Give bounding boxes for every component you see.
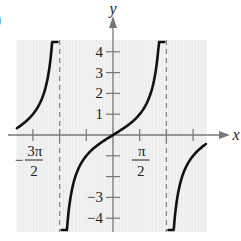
y-tick-label: −4 (87, 210, 103, 226)
x-axis-label: x (231, 126, 239, 143)
tangent-graph: yx4321−3−43π2−π2 (0, 0, 241, 241)
y-tick-label: 1 (96, 106, 104, 122)
x-axis-arrow-icon (219, 131, 230, 139)
y-axis-label: y (107, 0, 117, 18)
x-tick-label-numerator: 3π (27, 143, 43, 159)
x-tick-label-denominator: 2 (137, 163, 145, 179)
y-axis-arrow-icon (109, 16, 117, 28)
x-tick-label-denominator: 2 (30, 163, 38, 179)
x-tick-label-numerator: π (138, 143, 146, 159)
y-tick-label: 4 (96, 44, 104, 60)
y-tick-label: 3 (96, 65, 104, 81)
y-tick-label: −3 (87, 189, 103, 205)
y-tick-label: 2 (96, 85, 104, 101)
x-tick-label-sign: − (15, 152, 23, 168)
